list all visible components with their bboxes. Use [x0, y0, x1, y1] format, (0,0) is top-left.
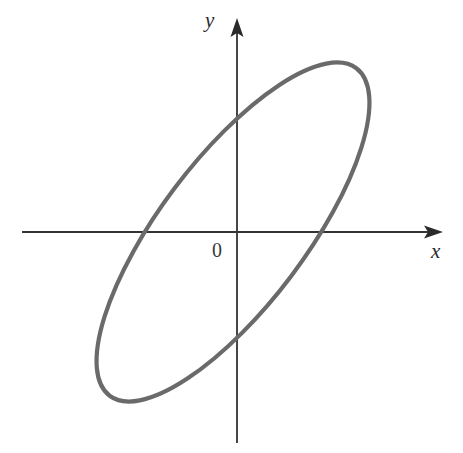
x-axis-label: x	[431, 241, 440, 262]
origin-label: 0	[212, 240, 222, 260]
figure-canvas: y x 0	[0, 0, 463, 453]
coordinate-plane-svg	[0, 0, 463, 453]
y-axis-label: y	[205, 10, 214, 31]
